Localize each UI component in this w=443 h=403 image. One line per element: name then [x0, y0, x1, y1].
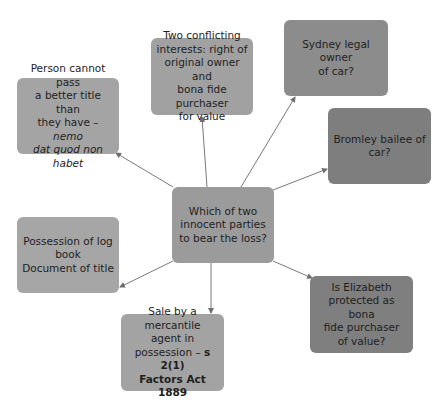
node-line: innocent parties	[179, 218, 267, 232]
node-line: for value	[156, 110, 248, 124]
conflicting-interests-node: Two conflicting interests: right of orig…	[151, 38, 253, 115]
statute-name: Factors Act 1889	[126, 373, 219, 400]
node-line: to bear the loss?	[179, 232, 267, 246]
node-line: Possession of log	[22, 235, 114, 249]
nemo-dat-node: Person cannot pass a better title than t…	[17, 78, 119, 154]
node-line: possession – s 2(1)	[126, 346, 219, 373]
node-line: of value?	[315, 335, 408, 349]
mind-map-canvas: Which of two innocent parties to bear th…	[0, 0, 443, 403]
connector-arrow	[120, 261, 173, 287]
elizabeth-bfp-node: Is Elizabeth protected as bona fide purc…	[310, 276, 413, 353]
node-line: a better title than	[22, 89, 114, 116]
connector-arrow	[273, 169, 327, 190]
node-line: Which of two	[179, 205, 267, 219]
node-line-fragment: possession –	[135, 346, 204, 358]
node-line: Person cannot pass	[22, 62, 114, 89]
node-line: of car?	[289, 65, 383, 79]
central-question-text: Which of two innocent parties to bear th…	[179, 205, 267, 246]
node-line: original owner and	[156, 56, 248, 83]
latin-maxim-fragment: dat quod non habet	[22, 143, 114, 170]
node-line: fide purchaser	[315, 321, 408, 335]
log-book-node: Possession of log book Document of title	[17, 217, 119, 293]
node-line: Sydney legal owner	[289, 38, 383, 65]
node-line: Two conflicting	[156, 29, 248, 43]
bromley-bailee-node: Bromley bailee of car?	[328, 108, 431, 184]
node-line: Is Elizabeth	[315, 281, 408, 295]
latin-maxim-fragment: nemo	[53, 130, 83, 142]
node-line: they have – nemo	[22, 116, 114, 143]
node-line: bona fide purchaser	[156, 83, 248, 110]
node-line: protected as bona	[315, 294, 408, 321]
node-line: Bromley bailee of	[333, 133, 425, 147]
node-line: Document of title	[22, 262, 114, 276]
node-line: car?	[333, 146, 425, 160]
node-line: book	[22, 248, 114, 262]
node-line: agent in	[126, 332, 219, 346]
connector-arrow	[116, 153, 173, 187]
node-line-fragment: they have –	[37, 116, 98, 128]
sydney-owner-node: Sydney legal owner of car?	[284, 20, 388, 96]
connector-arrow	[273, 261, 312, 278]
node-line: interests: right of	[156, 43, 248, 57]
node-line: Sale by a mercantile	[126, 305, 219, 332]
connector-arrow	[202, 117, 207, 187]
central-question-node: Which of two innocent parties to bear th…	[172, 187, 274, 263]
mercantile-agent-node: Sale by a mercantile agent in possession…	[121, 314, 224, 391]
